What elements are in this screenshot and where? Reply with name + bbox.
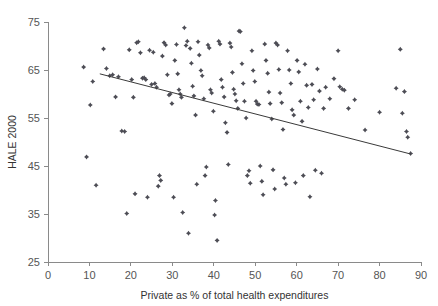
data-point-marker	[197, 53, 202, 58]
data-point-marker	[259, 179, 264, 184]
data-point-marker	[145, 195, 150, 200]
data-point-marker	[248, 181, 253, 186]
data-point-marker	[223, 120, 228, 125]
data-point-marker	[182, 25, 187, 30]
data-point-marker	[138, 50, 143, 55]
data-point-marker	[219, 77, 224, 82]
data-point-marker	[186, 231, 191, 236]
data-point-marker	[122, 129, 127, 134]
data-point-marker	[331, 76, 336, 81]
data-point-marker	[285, 48, 290, 53]
data-point-marker	[263, 58, 268, 63]
data-point-marker	[203, 173, 208, 178]
data-point-marker	[225, 130, 230, 135]
data-point-marker	[227, 41, 232, 46]
data-point-marker	[124, 211, 129, 216]
data-point-marker	[249, 48, 254, 53]
data-point-marker	[266, 90, 271, 95]
data-point-marker	[271, 167, 276, 172]
data-point-marker	[283, 182, 288, 187]
data-point-marker	[404, 129, 409, 134]
data-point-marker	[244, 116, 249, 121]
data-point-marker	[194, 182, 199, 187]
data-point-marker	[252, 79, 257, 84]
data-point-marker	[234, 98, 239, 103]
x-tick-label: 60	[291, 269, 303, 281]
data-point-marker	[198, 68, 203, 73]
data-point-marker	[291, 113, 296, 118]
data-point-marker	[185, 39, 190, 44]
x-tick-label: 50	[249, 269, 261, 281]
data-point-marker	[188, 46, 193, 51]
x-tick-label: 0	[45, 269, 51, 281]
trend-line	[100, 74, 411, 154]
data-point-marker	[213, 198, 218, 203]
data-point-marker	[176, 87, 181, 92]
data-point-marker	[280, 127, 285, 132]
x-tick-label: 80	[373, 269, 385, 281]
data-point-marker	[261, 192, 266, 197]
data-point-marker	[172, 58, 177, 63]
data-point-marker	[169, 101, 174, 106]
data-point-marker	[319, 171, 324, 176]
data-point-marker	[287, 68, 292, 73]
x-tick-label: 90	[415, 269, 427, 281]
data-point-marker	[405, 135, 410, 140]
data-point-marker	[171, 195, 176, 200]
data-point-marker	[211, 109, 216, 114]
data-point-marker	[301, 173, 306, 178]
data-points	[81, 25, 413, 243]
data-point-marker	[101, 46, 106, 51]
y-tick-label: 55	[28, 112, 40, 124]
x-tick-label: 20	[125, 269, 137, 281]
data-point-marker	[323, 85, 328, 90]
data-point-marker	[300, 119, 305, 124]
data-point-marker	[231, 87, 236, 92]
data-point-marker	[295, 58, 300, 63]
data-point-marker	[307, 194, 312, 199]
data-point-marker	[193, 113, 198, 118]
data-point-marker	[398, 47, 403, 52]
data-point-marker	[346, 106, 351, 111]
data-point-marker	[156, 184, 161, 189]
x-tick-label: 30	[166, 269, 178, 281]
y-tick-label: 25	[28, 256, 40, 268]
trend-line-path	[100, 74, 411, 154]
data-point-marker	[317, 89, 322, 94]
data-point-marker	[81, 65, 86, 70]
data-point-marker	[200, 73, 205, 78]
data-point-marker	[296, 69, 301, 74]
data-point-marker	[133, 191, 138, 196]
data-point-marker	[276, 67, 281, 72]
data-point-marker	[352, 97, 357, 102]
data-point-marker	[212, 212, 217, 217]
data-point-marker	[321, 106, 326, 111]
data-point-marker	[113, 94, 118, 99]
data-point-marker	[175, 71, 180, 76]
y-tick-label: 75	[28, 16, 40, 28]
data-point-marker	[90, 79, 95, 84]
data-point-marker	[304, 83, 309, 88]
data-point-marker	[268, 101, 273, 106]
data-point-marker	[402, 89, 407, 94]
data-point-marker	[160, 54, 165, 59]
data-point-marker	[272, 187, 277, 192]
y-tick-label: 45	[28, 160, 40, 172]
data-point-marker	[265, 71, 270, 76]
data-point-marker	[306, 105, 311, 110]
data-point-marker	[215, 238, 220, 243]
data-point-marker	[310, 82, 315, 87]
data-point-marker	[189, 61, 194, 66]
data-point-marker	[180, 210, 185, 215]
data-point-marker	[229, 44, 234, 49]
data-point-marker	[242, 99, 247, 104]
data-point-marker	[158, 178, 163, 183]
data-point-marker	[245, 173, 250, 178]
data-point-marker	[327, 96, 332, 101]
x-tick-label: 70	[332, 269, 344, 281]
scatter-chart: 253545556575 0102030405060708090 HALE 20…	[0, 0, 438, 306]
data-point-marker	[204, 164, 209, 169]
data-point-marker	[298, 99, 303, 104]
data-point-marker	[157, 173, 162, 178]
data-point-marker	[226, 162, 231, 167]
